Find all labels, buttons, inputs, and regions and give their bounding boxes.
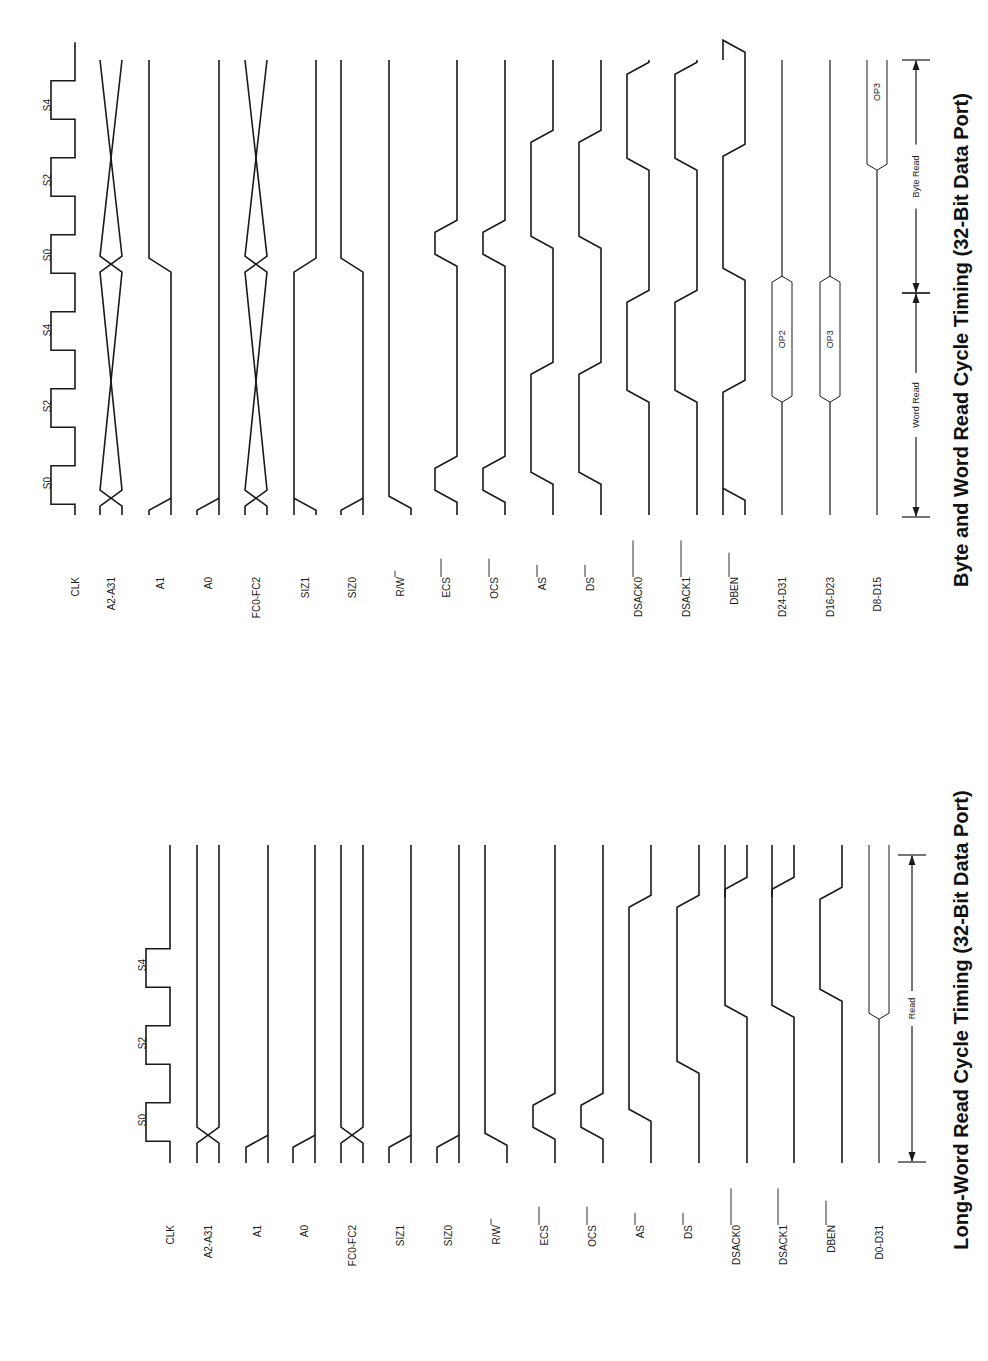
- rw-waveform: [389, 60, 411, 515]
- rw-waveform: [485, 845, 507, 1163]
- signal-waveform: [389, 845, 411, 1163]
- signal-label: A0: [203, 577, 214, 590]
- signal-label: OCS: [489, 577, 500, 599]
- arrowhead-icon: [913, 293, 920, 303]
- signal-label: SIZ0: [347, 577, 358, 599]
- signal-label: DS: [683, 1225, 694, 1239]
- signal-waveform: [246, 845, 268, 1163]
- signal-waveform: [629, 845, 651, 1163]
- arrowhead-icon: [909, 1152, 916, 1162]
- dben-waveform: [723, 40, 745, 515]
- signal-label: AS: [635, 1225, 646, 1239]
- signal-label: FC0-FC2: [347, 1225, 358, 1267]
- dben-waveform: [723, 488, 745, 515]
- signal-label: DBEN: [729, 577, 740, 605]
- signal-label: DSACK1: [778, 1225, 789, 1265]
- a0-waveform: [197, 60, 219, 515]
- signal-label: SIZ0: [443, 1225, 454, 1247]
- signal-label: A2-A31: [106, 577, 117, 611]
- signal-waveform: [820, 845, 842, 1163]
- signal-label: D16-D23: [825, 577, 836, 617]
- siz0-waveform: [341, 60, 363, 515]
- phase-annotation: Read: [907, 998, 917, 1020]
- signal-label: R/W: [395, 576, 406, 596]
- datasheet-page: S0S2S4S0S2S4CLKA2-A31A1A0FC0-FC2SIZ1SIZ0…: [0, 0, 988, 1361]
- signal-label: A1: [155, 577, 166, 590]
- data-value-label: OP2: [777, 330, 787, 348]
- signal-waveform: [293, 845, 315, 1163]
- signal-label: A2-A31: [203, 1225, 214, 1259]
- signal-waveform: [627, 60, 649, 515]
- signal-label: D0-D31: [874, 1225, 885, 1260]
- a1-waveform: [149, 60, 171, 515]
- dsack-waveform: [725, 845, 747, 1163]
- signal-label: D24-D31: [777, 577, 788, 617]
- signal-waveform: [533, 845, 555, 1163]
- data-valid-bubble: [867, 60, 887, 170]
- signal-waveform: [579, 60, 601, 515]
- signal-waveform: [677, 845, 699, 1163]
- signal-label: DSACK1: [681, 577, 692, 617]
- long-word-read-timing-diagram: S0S2S4CLKA2-A31A1A0FC0-FC2SIZ1SIZ0R/WECS…: [137, 845, 926, 1266]
- signal-label: CLK: [70, 577, 81, 597]
- signal-label: CLK: [165, 1225, 176, 1245]
- signal-label: DSACK0: [633, 577, 644, 617]
- byte-word-read-timing-diagram: S0S2S4S0S2S4CLKA2-A31A1A0FC0-FC2SIZ1SIZ0…: [42, 40, 930, 618]
- signal-waveform: [437, 845, 459, 1163]
- signal-label: DSACK0: [731, 1225, 742, 1265]
- signal-label: AS: [537, 577, 548, 591]
- signal-label: D8-D15: [872, 577, 883, 612]
- diagram-title-byte-word: Byte and Word Read Cycle Timing (32-Bit …: [950, 93, 972, 587]
- data-valid-bubble: [869, 845, 889, 1019]
- arrowhead-icon: [913, 283, 920, 293]
- bus-waveform: [197, 845, 219, 1163]
- data-value-label: OP3: [872, 83, 882, 101]
- dsack-waveform: [772, 845, 794, 1163]
- bus-waveform: [341, 845, 363, 1163]
- clk-waveform: [51, 42, 75, 515]
- signal-label: DS: [585, 577, 596, 591]
- signal-waveform: [581, 845, 603, 1163]
- arrowhead-icon: [913, 507, 920, 517]
- signal-waveform: [483, 60, 505, 515]
- signal-waveform: [435, 60, 457, 515]
- signal-label: A1: [252, 1225, 263, 1238]
- phase-annotation: Word Read: [911, 382, 921, 427]
- clk-waveform: [146, 845, 170, 1163]
- bus-waveform: [100, 60, 122, 515]
- bus-waveform: [100, 60, 122, 515]
- signal-label: A0: [299, 1225, 310, 1238]
- arrowhead-icon: [913, 60, 920, 70]
- signal-label: SIZ1: [395, 1225, 406, 1247]
- signal-label: OCS: [587, 1225, 598, 1247]
- signal-label: R/W: [491, 1224, 502, 1244]
- arrowhead-icon: [909, 855, 916, 865]
- signal-label: SIZ1: [300, 577, 311, 599]
- signal-waveform: [675, 60, 697, 515]
- signal-label: ECS: [441, 577, 452, 598]
- bus-waveform: [341, 845, 363, 1163]
- signal-label: ECS: [539, 1225, 550, 1246]
- signal-label: DBEN: [826, 1225, 837, 1253]
- signal-waveform: [531, 60, 553, 515]
- timing-diagram-canvas: S0S2S4S0S2S4CLKA2-A31A1A0FC0-FC2SIZ1SIZ0…: [0, 0, 988, 1361]
- bus-waveform: [245, 60, 267, 515]
- diagram-title-long-word: Long-Word Read Cycle Timing (32-Bit Data…: [950, 790, 972, 1249]
- phase-annotation: Byte Read: [911, 155, 921, 197]
- bus-waveform: [245, 60, 267, 515]
- data-value-label: OP3: [825, 330, 835, 348]
- signal-label: FC0-FC2: [251, 577, 262, 619]
- bus-waveform: [197, 845, 219, 1163]
- siz1-waveform: [294, 60, 316, 515]
